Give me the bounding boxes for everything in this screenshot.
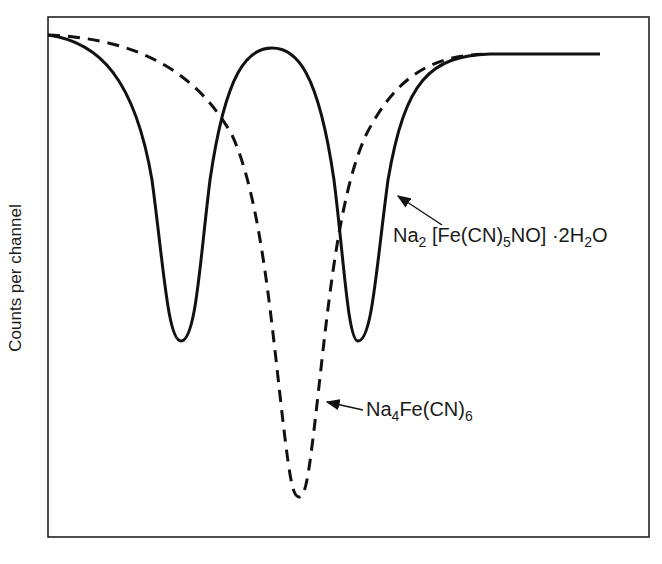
plot-frame xyxy=(48,17,649,537)
y-axis-label: Counts per channel xyxy=(6,198,26,358)
chart-area xyxy=(0,0,662,564)
series-ferrocyanide-dashed xyxy=(48,35,490,497)
annotation-arrow-ferrocyanide xyxy=(327,402,363,410)
series-nitroprusside-solid xyxy=(48,35,600,341)
label-ferrocyanide: Na4Fe(CN)6 xyxy=(366,398,473,424)
label-nitroprusside: Na2 [Fe(CN)5NO] ·2H2O xyxy=(393,224,608,250)
annotation-arrow-nitroprusside xyxy=(398,196,442,225)
